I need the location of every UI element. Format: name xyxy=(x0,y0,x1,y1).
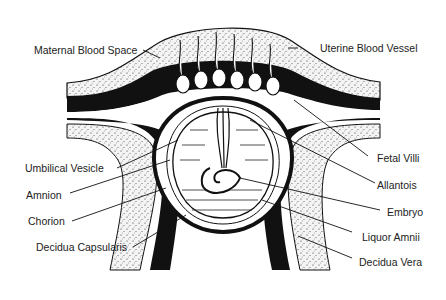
label-umbilical-vesicle: Umbilical Vesicle xyxy=(25,162,104,174)
label-decidua-vera: Decidua Vera xyxy=(359,256,422,268)
label-decidua-capsularis: Decidua Capsularis xyxy=(36,241,127,253)
label-embryo: Embryo xyxy=(387,206,423,218)
label-liquor-amnii: Liquor Amnii xyxy=(362,231,420,243)
label-uterine-blood-vessel: Uterine Blood Vessel xyxy=(320,42,417,54)
label-amnion: Amnion xyxy=(26,189,62,201)
label-chorion: Chorion xyxy=(28,215,65,227)
label-fetal-villi: Fetal Villi xyxy=(377,152,419,164)
label-allantois: Allantois xyxy=(377,179,417,191)
label-maternal-blood-space: Maternal Blood Space xyxy=(34,44,137,56)
